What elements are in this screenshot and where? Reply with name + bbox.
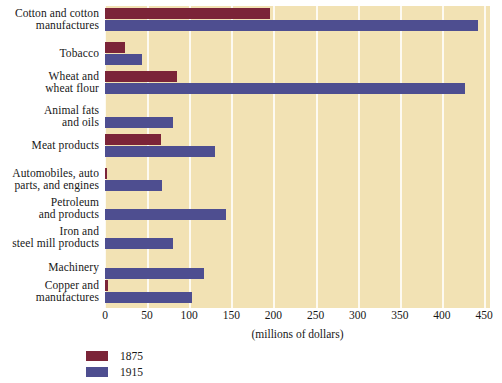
x-tick-label: 250 — [307, 309, 324, 321]
bar-1915 — [105, 180, 162, 191]
bar-group — [105, 42, 490, 66]
bar-1915 — [105, 117, 173, 128]
bar-group — [105, 134, 490, 158]
x-tick-label: 0 — [102, 309, 108, 321]
category-label-line: Iron and — [0, 225, 99, 238]
category-label: Meat products — [0, 139, 99, 152]
category-label-line: parts, and engines — [0, 179, 99, 192]
bar-1875 — [105, 280, 108, 291]
category-label-line: wheat flour — [0, 82, 99, 95]
bar-group — [105, 168, 490, 192]
x-tick-label: 450 — [475, 309, 492, 321]
x-tick-label: 50 — [141, 309, 153, 321]
category-label-line: Cotton and cotton — [0, 7, 99, 20]
bar-1875 — [105, 8, 270, 19]
x-tick-label: 350 — [391, 309, 408, 321]
x-tick-label: 100 — [181, 309, 198, 321]
chart-legend: 18751915 — [86, 348, 143, 380]
bar-1915 — [105, 54, 142, 65]
category-label-line: and oils — [0, 116, 99, 129]
bar-1875 — [105, 42, 125, 53]
category-label-line: manufactures — [0, 291, 99, 304]
category-label-line: Copper and — [0, 279, 99, 292]
legend-swatch — [86, 351, 108, 361]
bar-group — [105, 256, 490, 280]
category-label-line: manufactures — [0, 19, 99, 32]
legend-label: 1915 — [120, 366, 143, 378]
category-label-line: Meat products — [0, 139, 99, 152]
category-label-line: Wheat and — [0, 70, 99, 83]
bar-1915 — [105, 209, 226, 220]
category-label: Cotton and cottonmanufactures — [0, 7, 99, 32]
bar-group — [105, 105, 490, 129]
bar-1915 — [105, 146, 215, 157]
category-label-line: Machinery — [0, 261, 99, 274]
horizontal-bar-chart: Cotton and cottonmanufacturesTobaccoWhea… — [0, 0, 502, 383]
category-label-line: Automobiles, auto — [0, 167, 99, 180]
category-label-column: Cotton and cottonmanufacturesTobaccoWhea… — [0, 6, 99, 308]
category-label-line: and products — [0, 208, 99, 221]
legend-label: 1875 — [120, 350, 143, 362]
bar-group — [105, 280, 490, 304]
x-axis-tick-labels: 050100150200250300350400450 — [0, 309, 502, 327]
category-label-line: Animal fats — [0, 104, 99, 117]
legend-entry: 1875 — [86, 348, 143, 364]
category-label: Automobiles, autoparts, and engines — [0, 167, 99, 192]
category-label: Copper andmanufactures — [0, 279, 99, 304]
bar-1875 — [105, 168, 107, 179]
category-label: Wheat andwheat flour — [0, 70, 99, 95]
category-label: Animal fatsand oils — [0, 104, 99, 129]
category-label-line: Tobacco — [0, 47, 99, 60]
x-tick-label: 200 — [265, 309, 282, 321]
category-label: Machinery — [0, 261, 99, 274]
bar-1915 — [105, 20, 478, 31]
bar-1875 — [105, 134, 161, 145]
bar-1915 — [105, 83, 465, 94]
x-tick-label: 300 — [349, 309, 366, 321]
category-label-line: Petroleum — [0, 196, 99, 209]
category-label-line: steel mill products — [0, 237, 99, 250]
x-tick-label: 150 — [223, 309, 240, 321]
bar-group — [105, 226, 490, 250]
bar-group — [105, 71, 490, 95]
legend-entry: 1915 — [86, 364, 143, 380]
category-label: Petroleumand products — [0, 196, 99, 221]
x-axis-title: (millions of dollars) — [105, 328, 490, 340]
bar-1915 — [105, 268, 204, 279]
bar-1915 — [105, 238, 173, 249]
category-label: Iron andsteel mill products — [0, 225, 99, 250]
legend-swatch — [86, 367, 108, 377]
bar-1915 — [105, 292, 192, 303]
bar-1875 — [105, 71, 177, 82]
x-tick-label: 400 — [433, 309, 450, 321]
category-label: Tobacco — [0, 47, 99, 60]
bar-group — [105, 197, 490, 221]
bar-group — [105, 8, 490, 32]
plot-area — [105, 6, 490, 308]
